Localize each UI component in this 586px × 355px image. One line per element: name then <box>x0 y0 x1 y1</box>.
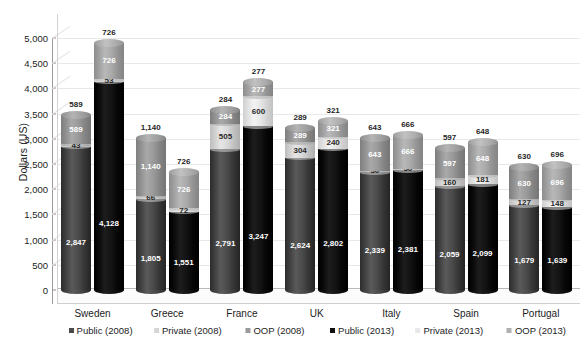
segment-private-2008[interactable] <box>210 124 240 149</box>
x-axis-label-spain: Spain <box>453 308 479 319</box>
segment-oop-2013[interactable] <box>542 165 572 200</box>
legend-item-public-2013[interactable]: Public (2013) <box>330 325 394 336</box>
segment-public-2013[interactable] <box>318 149 348 290</box>
bar-group-sweden: 2,847435895894,12853726726 <box>61 38 124 290</box>
bar-france-2013[interactable]: 3,247600277277 <box>243 82 273 290</box>
x-axis-category-labels: SwedenGreeceFranceUKItalySpainPortugal <box>57 308 580 324</box>
y-axis-tick-label: 2,500 <box>24 159 48 170</box>
bar-italy-2008[interactable]: 2,33930643643 <box>360 138 390 290</box>
bar-sweden-2008[interactable]: 2,84743589589 <box>61 115 91 290</box>
top-label-oop-2008: 589 <box>61 100 91 109</box>
plot-area: 2,847435895894,128537267261,805661,1401,… <box>57 14 580 304</box>
top-label-oop-2008: 597 <box>435 133 465 142</box>
x-axis-label-uk: UK <box>310 308 324 319</box>
segment-oop-2008[interactable] <box>136 138 166 195</box>
bar-sweden-2013[interactable]: 4,12853726726 <box>94 43 124 290</box>
x-axis-label-sweden: Sweden <box>74 308 110 319</box>
bar-spain-2013[interactable]: 2,099181648648 <box>468 142 498 290</box>
y-axis-tick-label: 3,000 <box>24 133 48 144</box>
top-label-oop-2013: 726 <box>94 28 124 37</box>
legend-item-public-2008[interactable]: Public (2008) <box>69 325 133 336</box>
legend-label: OOP (2008) <box>253 325 304 336</box>
bar-uk-2008[interactable]: 2,624304289289 <box>285 128 315 290</box>
bar-top-ellipse <box>435 144 465 152</box>
bar-portugal-2013[interactable]: 1,639148696696 <box>542 165 572 290</box>
segment-oop-2008[interactable] <box>509 167 539 199</box>
legend-item-private-2013[interactable]: Private (2013) <box>415 325 483 336</box>
chart-legend: Public (2008)Private (2008)OOP (2008)Pub… <box>57 325 580 341</box>
segment-public-2008[interactable] <box>210 149 240 290</box>
bar-series-container: 2,847435895894,128537267261,805661,1401,… <box>57 14 580 304</box>
y-axis-tick-label: 4,500 <box>24 58 48 69</box>
segment-oop-2008[interactable] <box>435 148 465 178</box>
top-label-oop-2013: 321 <box>318 106 348 115</box>
y-axis-tick-label: 5,000 <box>24 33 48 44</box>
segment-oop-2013[interactable] <box>468 142 498 175</box>
bar-top-ellipse <box>61 111 91 119</box>
bar-top-ellipse <box>285 124 315 132</box>
bar-top-ellipse <box>210 106 240 114</box>
bar-group-france: 2,7915052842843,247600277277 <box>210 38 273 290</box>
bar-spain-2008[interactable]: 2,059160597597 <box>435 148 465 290</box>
legend-swatch-icon <box>245 328 250 333</box>
segment-oop-2013[interactable] <box>94 43 124 80</box>
top-label-oop-2013: 277 <box>243 67 273 76</box>
bar-top-ellipse <box>393 131 423 139</box>
segment-public-2008[interactable] <box>360 172 390 290</box>
bar-group-portugal: 1,6791276306301,639148696696 <box>509 38 572 290</box>
legend-item-oop-2013[interactable]: OOP (2013) <box>507 325 566 336</box>
top-label-oop-2008: 289 <box>285 113 315 122</box>
y-axis-tick-label: 500 <box>32 259 48 270</box>
segment-public-2008[interactable] <box>61 147 91 290</box>
x-axis-label-france: France <box>226 308 257 319</box>
segment-oop-2013[interactable] <box>393 135 423 169</box>
segment-public-2013[interactable] <box>468 184 498 290</box>
legend-item-oop-2008[interactable]: OOP (2008) <box>245 325 304 336</box>
bar-top-ellipse <box>318 117 348 125</box>
segment-public-2008[interactable] <box>285 158 315 290</box>
segment-public-2008[interactable] <box>509 205 539 290</box>
legend-swatch-icon <box>330 328 335 333</box>
segment-public-2008[interactable] <box>435 186 465 290</box>
bar-uk-2013[interactable]: 2,802240321321 <box>318 121 348 290</box>
legend-label: Public (2013) <box>338 325 394 336</box>
segment-public-2013[interactable] <box>169 212 199 290</box>
segment-public-2013[interactable] <box>542 207 572 290</box>
segment-public-2013[interactable] <box>393 170 423 290</box>
top-label-oop-2013: 726 <box>169 157 199 166</box>
top-label-oop-2013: 696 <box>542 150 572 159</box>
bar-france-2008[interactable]: 2,791505284284 <box>210 110 240 290</box>
legend-label: Public (2008) <box>77 325 133 336</box>
bar-italy-2013[interactable]: 2,38130666666 <box>393 135 423 290</box>
segment-public-2013[interactable] <box>243 126 273 290</box>
segment-oop-2008[interactable] <box>360 138 390 170</box>
legend-item-private-2008[interactable]: Private (2008) <box>154 325 222 336</box>
stacked-bar-chart: Dollars (US) 5,0004,5004,0003,5003,0002,… <box>0 0 586 355</box>
bar-portugal-2008[interactable]: 1,679127630630 <box>509 167 539 290</box>
y-axis-tick-label: 2,000 <box>24 184 48 195</box>
bar-top-ellipse <box>542 161 572 169</box>
bar-group-greece: 1,805661,1401,1401,55172726726 <box>136 38 199 290</box>
x-axis-label-italy: Italy <box>382 308 400 319</box>
top-label-oop-2013: 648 <box>468 127 498 136</box>
y-axis-tick-label: 1,000 <box>24 234 48 245</box>
segment-oop-2008[interactable] <box>61 115 91 145</box>
segment-private-2013[interactable] <box>243 96 273 126</box>
legend-label: Private (2008) <box>162 325 222 336</box>
top-label-oop-2008: 630 <box>509 152 539 161</box>
segment-oop-2013[interactable] <box>169 172 199 209</box>
segment-public-2008[interactable] <box>136 199 166 290</box>
legend-swatch-icon <box>507 328 512 333</box>
segment-public-2013[interactable] <box>94 82 124 290</box>
legend-label: Private (2013) <box>423 325 483 336</box>
bar-greece-2013[interactable]: 1,55172726726 <box>169 172 199 290</box>
bar-group-italy: 2,339306436432,38130666666 <box>360 38 423 290</box>
bar-greece-2008[interactable]: 1,805661,1401,140 <box>136 138 166 290</box>
x-axis-label-greece: Greece <box>151 308 184 319</box>
top-label-oop-2008: 643 <box>360 123 390 132</box>
legend-swatch-icon <box>69 328 74 333</box>
y-axis-tick-labels: 5,0004,5004,0003,5003,0002,5002,0001,500… <box>0 0 52 310</box>
bar-top-ellipse <box>169 168 199 176</box>
bar-group-spain: 2,0591605975972,099181648648 <box>435 38 498 290</box>
top-label-oop-2013: 666 <box>393 120 423 129</box>
